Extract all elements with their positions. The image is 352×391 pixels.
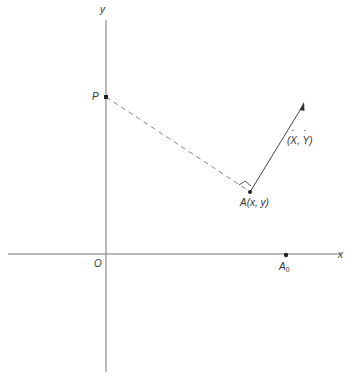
dashed-line-p-to-a	[106, 97, 246, 189]
point-a0-label: A0	[279, 261, 290, 273]
velocity-arrow-line	[250, 107, 302, 192]
point-p-label: P	[92, 91, 99, 102]
point-p	[104, 95, 108, 99]
arrowhead-icon	[300, 102, 305, 111]
point-a	[248, 190, 252, 194]
point-a-label: A(x, y)	[240, 197, 269, 208]
x-axis-label: x	[338, 249, 343, 260]
diagram-canvas	[0, 0, 352, 391]
velocity-label: (X, Y)	[287, 135, 313, 146]
point-a0	[284, 253, 288, 257]
right-angle-marker	[239, 181, 251, 186]
origin-label: O	[94, 258, 102, 269]
y-axis-label: y	[100, 4, 105, 15]
